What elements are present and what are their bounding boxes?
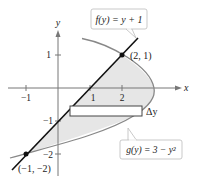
y-tick-label: 1: [46, 50, 51, 60]
x-tick-label: 1: [91, 93, 96, 103]
x-tick-label: −1: [21, 93, 31, 103]
x-tick-label: 2: [120, 93, 125, 103]
g-label: g(y) = 3 − y²: [126, 145, 176, 156]
y-tick-label: −1: [43, 116, 53, 126]
representative-rectangle: [70, 106, 142, 116]
diagram-canvas: f(y) = y + 1 g(y) = 3 − y² x y −1 1 2 1 …: [0, 0, 198, 180]
f-label-callout-tail: [126, 29, 136, 38]
point-label: (2, 1): [130, 50, 152, 62]
point-label: (−1, −2): [18, 163, 51, 175]
g-label-callout-tail: [128, 128, 137, 141]
intersection-point: [24, 152, 29, 157]
f-label: f(y) = y + 1: [96, 14, 143, 26]
y-axis-label: y: [55, 17, 61, 28]
intersection-point: [120, 53, 125, 58]
x-axis-arrow-icon: [175, 86, 182, 91]
y-tick-label: −2: [43, 150, 53, 160]
y-axis-arrow-icon: [56, 30, 61, 37]
delta-y-label: Δy: [146, 106, 157, 117]
x-axis-label: x: [183, 82, 189, 93]
area-between-curves-diagram: f(y) = y + 1 g(y) = 3 − y² x y −1 1 2 1 …: [0, 0, 198, 180]
